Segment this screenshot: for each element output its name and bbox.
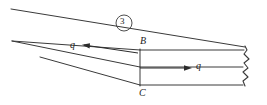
label-point-c: C — [139, 88, 146, 98]
label-point-b: B — [140, 36, 146, 46]
label-shear-flow-right: q — [196, 61, 201, 71]
beam-diagram-svg — [0, 0, 267, 105]
arrow-shear-right-head — [184, 65, 192, 70]
edge-bottom-front — [40, 57, 140, 85]
edge-middle-receding — [12, 41, 140, 67]
edge-top-front — [12, 41, 140, 50]
break-line-icon — [243, 46, 249, 86]
label-callout-number: 3 — [120, 17, 125, 26]
label-shear-flow-left: q — [70, 40, 75, 50]
figure-container: B C q q 3 — [0, 0, 267, 105]
edge-top-back — [11, 9, 245, 47]
